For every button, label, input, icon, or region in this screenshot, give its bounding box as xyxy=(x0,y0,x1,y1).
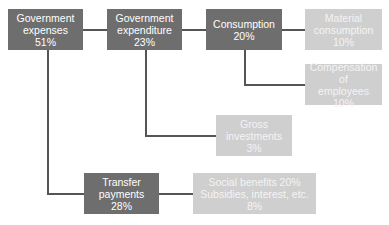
node-value: 51% xyxy=(35,36,56,48)
node-value: 20% xyxy=(233,30,254,42)
node-label: Government xyxy=(116,12,174,24)
node-social-benefits: Social benefits 20% Subsidies, interest,… xyxy=(193,173,316,214)
node-label: expenditure xyxy=(117,24,172,36)
node-label: consumption xyxy=(314,24,374,36)
node-consumption: Consumption 20% xyxy=(206,9,282,50)
node-label: Transfer xyxy=(102,176,141,188)
node-government-expenses: Government expenses 51% xyxy=(8,9,83,50)
connector-consumption-down xyxy=(244,50,246,85)
node-label: Social benefits 20% xyxy=(208,176,300,188)
node-label: Subsidies, interest, etc. 8% xyxy=(193,188,316,212)
node-gross-investments: Gross investments 3% xyxy=(216,115,292,156)
node-value: 10% xyxy=(333,97,354,109)
node-value: 23% xyxy=(134,36,155,48)
node-government-expenditure: Government expenditure 23% xyxy=(107,9,182,50)
connector-expenditure-down xyxy=(145,50,147,136)
connector-expenditure-consumption xyxy=(182,29,206,31)
connector-expenses-expenditure xyxy=(83,29,107,31)
node-label: Gross xyxy=(240,118,268,130)
node-material-consumption: Material consumption 10% xyxy=(305,9,382,50)
node-label: employees xyxy=(318,85,369,97)
connector-consumption-material xyxy=(282,29,305,31)
node-label: investments xyxy=(226,130,282,142)
connector-expenditure-investments xyxy=(145,135,216,137)
node-label: payments xyxy=(99,188,145,200)
node-label: Material xyxy=(325,12,362,24)
node-label: Compensation of xyxy=(305,61,382,85)
connector-transfer-social xyxy=(159,193,193,195)
node-value: 10% xyxy=(333,36,354,48)
node-label: Government xyxy=(17,12,75,24)
connector-consumption-compensation xyxy=(244,84,305,86)
node-value: 3% xyxy=(246,142,261,154)
node-transfer-payments: Transfer payments 28% xyxy=(84,173,159,214)
node-compensation-of-employees: Compensation of employees 10% xyxy=(305,64,382,105)
connector-expenses-down xyxy=(47,50,49,194)
node-label: Consumption xyxy=(213,18,275,30)
node-value: 28% xyxy=(111,200,132,212)
connector-expenses-transfer xyxy=(47,193,84,195)
node-label: expenses xyxy=(23,24,68,36)
